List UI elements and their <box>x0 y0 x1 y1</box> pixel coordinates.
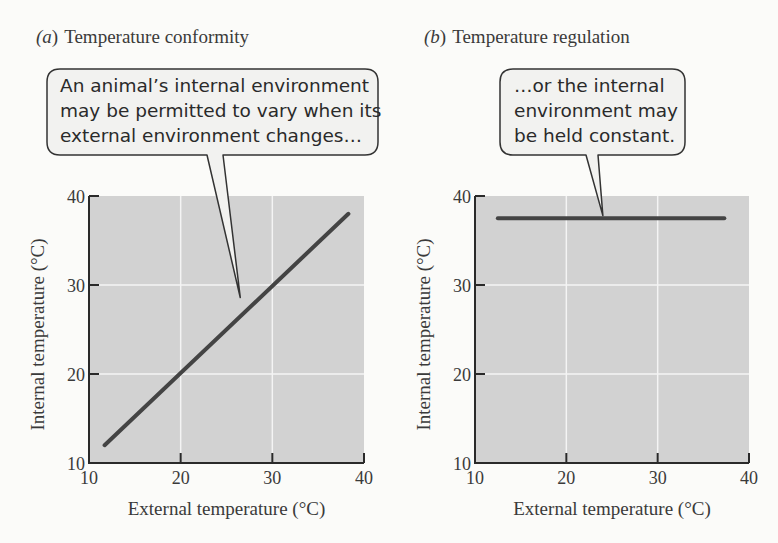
x-tick-label: 40 <box>355 468 373 488</box>
y-axis-label: Internal temperature (°C) <box>413 238 435 430</box>
y-tick-label: 40 <box>67 187 85 207</box>
y-tick-label: 30 <box>67 276 85 296</box>
plot-area <box>475 196 749 463</box>
x-tick-label: 20 <box>557 468 575 488</box>
x-axis-label: External temperature (°C) <box>128 498 326 520</box>
y-tick-label: 40 <box>453 187 471 207</box>
callout-text-line: An animal’s internal environment <box>60 75 369 96</box>
callout-text-line: may be permitted to vary when its <box>60 100 381 121</box>
panel-title-text: Temperature conformity <box>64 26 249 47</box>
y-axis-label: Internal temperature (°C) <box>27 238 49 430</box>
x-tick-label: 40 <box>740 468 758 488</box>
x-tick-label: 30 <box>263 468 281 488</box>
figure: (a)Temperature conformity102030401020304… <box>0 0 778 543</box>
panel-title-text: Temperature regulation <box>452 26 630 47</box>
callout-text-line: external environment changes… <box>60 125 362 146</box>
x-tick-label: 30 <box>649 468 667 488</box>
callout-bubble: …or the internalenvironment maybe held c… <box>500 69 685 216</box>
panel-title: (b)Temperature regulation <box>424 26 630 48</box>
chart-panel-b: (b)Temperature regulation102030401020304… <box>413 26 758 520</box>
callout-text-line: be held constant. <box>514 125 675 146</box>
panel-title: (a)Temperature conformity <box>36 26 250 48</box>
y-tick-label: 30 <box>453 276 471 296</box>
x-tick-label: 10 <box>466 468 484 488</box>
chart-panel-a: (a)Temperature conformity102030401020304… <box>27 26 381 520</box>
x-tick-label: 10 <box>80 468 98 488</box>
y-tick-label: 20 <box>67 365 85 385</box>
callout-text-line: environment may <box>514 100 678 121</box>
x-tick-label: 20 <box>172 468 190 488</box>
callout-text-line: …or the internal <box>514 75 665 96</box>
y-tick-label: 20 <box>453 365 471 385</box>
x-axis-label: External temperature (°C) <box>513 498 711 520</box>
